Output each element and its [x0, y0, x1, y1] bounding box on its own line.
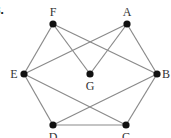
node-label-c: C	[122, 130, 130, 138]
node-label-e: E	[10, 67, 17, 81]
edge-a-g	[90, 24, 127, 74]
node-b	[153, 70, 160, 77]
edge-f-g	[53, 24, 90, 74]
edge-e-c	[24, 74, 126, 125]
node-e	[20, 70, 27, 77]
node-a	[123, 20, 130, 27]
node-label-a: A	[123, 5, 132, 19]
node-label-b: B	[162, 67, 170, 81]
node-label-d: D	[49, 130, 58, 138]
node-f	[49, 20, 56, 27]
node-g	[86, 70, 93, 77]
graph-nodes	[20, 20, 160, 128]
graph-diagram: 8. FAEGBDC	[0, 0, 171, 138]
problem-number: 8.	[0, 2, 4, 17]
node-d	[49, 121, 56, 128]
node-c	[122, 121, 129, 128]
edge-a-e	[24, 24, 127, 74]
node-label-g: G	[86, 79, 95, 93]
node-label-f: F	[50, 5, 57, 19]
